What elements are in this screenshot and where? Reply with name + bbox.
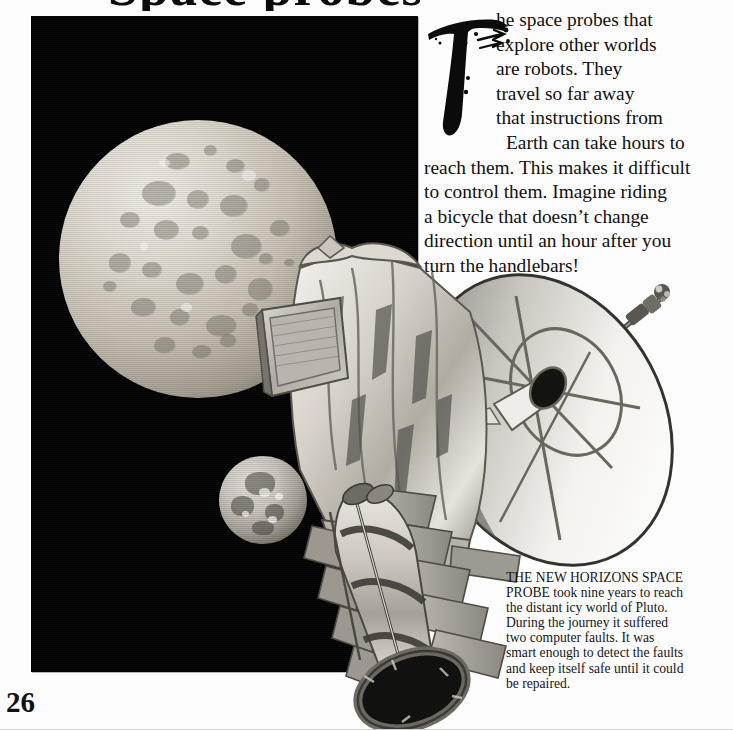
body-line: direction until an hour after you [424, 229, 729, 254]
caption-line: the distant icy world of Pluto. [506, 600, 733, 615]
feed-horn [476, 361, 573, 430]
illustration-plate [31, 16, 418, 672]
caption-line: two computer faults. It was [506, 630, 733, 645]
body-text: he space probes that explore other world… [424, 8, 729, 279]
body-line: turn the handlebars! [424, 254, 729, 279]
page-title-text: Space probes [108, 0, 420, 11]
book-page: Space probes [0, 0, 733, 730]
caption-line: PROBE took nine years to reach [506, 585, 733, 600]
body-line: a bicycle that doesn’t change [424, 205, 729, 230]
high-gain-antenna-dish [370, 230, 721, 609]
page-title-remnant: Space probes [0, 0, 420, 11]
caption-line: During the journey it suffered [506, 615, 733, 630]
caption-line: THE NEW HORIZONS SPACE [506, 570, 733, 585]
body-line: to control them. Imagine riding [424, 180, 729, 205]
page-number: 26 [6, 686, 35, 719]
caption-line: and keep itself safe until it could [506, 661, 733, 676]
body-line: reach them. This makes it difficult [424, 156, 729, 181]
caption-line: smart enough to detect the faults [506, 645, 733, 660]
figure-caption: THE NEW HORIZONS SPACE PROBE took nine y… [506, 570, 733, 691]
pluto-sphere [59, 120, 337, 398]
caption-line: be repaired. [506, 676, 733, 691]
instrument-boom [588, 284, 670, 368]
charon-moon [219, 456, 307, 544]
dropcap-T-icon [420, 10, 516, 140]
